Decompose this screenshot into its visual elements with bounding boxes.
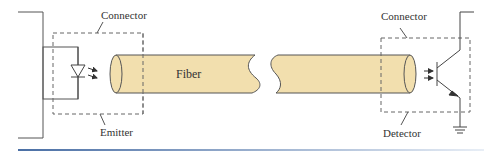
connector-right-label: Connector xyxy=(381,10,427,22)
phototransistor-icon xyxy=(437,12,474,127)
bottom-rule xyxy=(18,149,484,151)
ground-icon xyxy=(453,127,467,133)
incoming-light-arrows-icon xyxy=(424,71,433,78)
detector-label: Detector xyxy=(383,127,421,139)
fiber-segment-right xyxy=(271,55,416,93)
emitter-circuit-wires xyxy=(18,12,78,138)
emitted-light-arrows-icon xyxy=(88,68,97,78)
emitter-label: Emitter xyxy=(100,126,133,138)
fiber-label: Fiber xyxy=(176,67,201,81)
fiber-optic-diagram: Connector Emitter Fiber Connector Detect… xyxy=(0,0,484,155)
led-diode-icon xyxy=(71,47,85,99)
connector-left-label: Connector xyxy=(101,9,147,21)
